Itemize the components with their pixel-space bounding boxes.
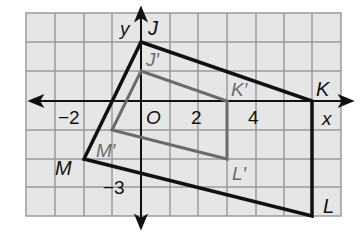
vertex-label-j-prime: J′ — [145, 49, 161, 70]
vertex-label-k: K — [316, 78, 331, 100]
tick-label-x-2: 2 — [191, 107, 202, 128]
vertex-label-j: J — [147, 17, 159, 39]
y-axis-label: y — [118, 18, 131, 39]
vertex-label-m: M — [55, 157, 72, 179]
origin-label: O — [146, 107, 161, 128]
vertex-label-m-prime: M′ — [96, 140, 117, 161]
tick-label-x-neg2: −2 — [58, 107, 80, 128]
tick-label-x-4: 4 — [248, 107, 259, 128]
tick-label-y-neg3: −3 — [103, 177, 125, 198]
vertex-label-l: L — [323, 195, 334, 217]
vertex-label-l-prime: L′ — [232, 163, 248, 184]
x-axis-label: x — [321, 108, 333, 129]
coordinate-plane-figure: y x O −2 2 4 −3 J K L M J′ K′ L′ M′ — [0, 0, 362, 236]
vertex-label-k-prime: K′ — [231, 79, 249, 100]
